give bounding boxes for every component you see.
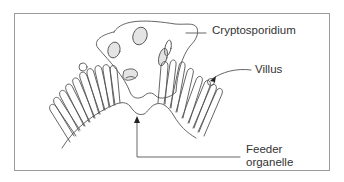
label-feeder-line1: Feeder — [246, 143, 293, 156]
vacuole — [130, 25, 149, 47]
label-feeder-organelle: Feeder organelle — [246, 143, 293, 169]
label-villus: Villus — [255, 63, 282, 76]
villus-arrowhead — [210, 76, 216, 82]
villus-pointer — [212, 69, 251, 79]
vacuole — [123, 69, 138, 80]
left-villi — [50, 63, 120, 142]
vacuole — [106, 41, 122, 60]
label-cryptosporidium: Cryptosporidium — [212, 24, 296, 37]
epithelium-surface — [62, 103, 196, 148]
feeder-arrowhead — [134, 116, 140, 123]
label-feeder-line2: organelle — [246, 156, 293, 169]
feeder-pointer — [137, 122, 240, 157]
